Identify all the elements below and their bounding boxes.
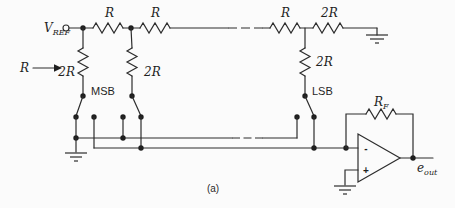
lsb-label: LSB bbox=[312, 85, 333, 97]
resistor-r3-label: R bbox=[280, 6, 290, 20]
shunt-resistor-bit2: 2R bbox=[127, 28, 161, 96]
resistor-r1: R bbox=[93, 6, 123, 33]
input-resistance-label: R bbox=[19, 61, 29, 75]
switch-lever bbox=[76, 96, 83, 116]
lsb-switch bbox=[294, 93, 316, 148]
figure-caption: (a) bbox=[207, 183, 219, 194]
ground-symbol-top-right bbox=[366, 28, 388, 43]
r2r-ladder-dac-schematic: VREF R R R 2R R bbox=[0, 0, 455, 208]
shunt-lsb-label: 2R bbox=[315, 55, 333, 69]
vref-terminal-circle bbox=[63, 25, 69, 31]
terminating-resistor-label: 2R bbox=[320, 6, 338, 20]
resistor-zigzag bbox=[127, 48, 137, 76]
msb-label: MSB bbox=[91, 85, 115, 97]
shunt-resistor-msb: 2R bbox=[57, 28, 88, 96]
bus-junction-dot bbox=[311, 145, 316, 150]
opamp-inverting-input-label: - bbox=[364, 143, 367, 154]
resistor-r2-label: R bbox=[150, 6, 160, 20]
resistor-zigzag bbox=[270, 23, 300, 33]
output: eout bbox=[400, 155, 438, 177]
resistor-zigzag bbox=[366, 109, 396, 119]
feedback-resistor-label: RF bbox=[373, 95, 389, 111]
bus-junction-dot bbox=[120, 135, 125, 140]
shunt-msb-label: 2R bbox=[57, 65, 75, 79]
switch-lever bbox=[305, 96, 314, 116]
opamp: - + bbox=[358, 134, 400, 182]
resistor-zigzag bbox=[93, 23, 123, 33]
resistor-r3: R bbox=[270, 6, 300, 33]
resistor-zigzag bbox=[313, 23, 343, 33]
bus-junction-dot bbox=[138, 145, 143, 150]
output-node-dot bbox=[410, 155, 415, 160]
resistor-r2: R bbox=[140, 6, 170, 33]
ground-symbol-left bbox=[65, 138, 87, 161]
summing-bus bbox=[94, 145, 358, 150]
shunt-bit2-label: 2R bbox=[143, 65, 161, 79]
wire bbox=[346, 114, 366, 148]
resistor-r1-label: R bbox=[104, 6, 114, 20]
input-resistance-marker: R bbox=[19, 61, 62, 75]
resistor-zigzag bbox=[300, 48, 310, 76]
vref-terminal: VREF bbox=[44, 21, 83, 37]
switch-lever bbox=[132, 96, 141, 116]
opamp-noninverting-ground bbox=[334, 170, 358, 194]
opamp-noninverting-input-label: + bbox=[363, 165, 369, 176]
circuit-figure: VREF R R R 2R R bbox=[0, 0, 455, 208]
output-label: eout bbox=[417, 161, 438, 177]
terminating-resistor-2r: 2R bbox=[313, 6, 343, 33]
wire bbox=[396, 114, 413, 158]
wire bbox=[345, 170, 358, 185]
ground-bus bbox=[73, 135, 297, 140]
resistor-zigzag bbox=[78, 48, 88, 76]
resistor-zigzag bbox=[140, 23, 170, 33]
